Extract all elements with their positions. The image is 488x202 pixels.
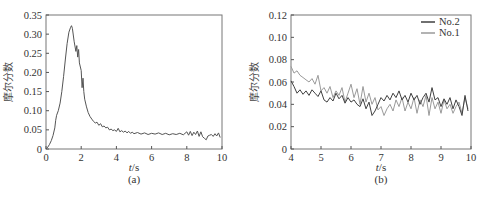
y-tick-label: 0.08	[269, 54, 287, 65]
x-tick-label: 8	[184, 152, 189, 163]
x-tick-label: 6	[149, 152, 154, 163]
x-tick-label: 10	[466, 152, 477, 163]
x-tick-label: 8	[408, 152, 413, 163]
y-tick-label: 0	[37, 144, 42, 155]
x-tick-label: 2	[79, 152, 84, 163]
x-tick-label: 6	[348, 152, 353, 163]
panel-label: (b)	[375, 173, 388, 186]
x-tick-label: 10	[217, 152, 228, 163]
y-tick-label: 0.35	[24, 10, 42, 21]
plot-frame	[46, 15, 222, 149]
x-axis-label: t/s	[376, 161, 386, 173]
chart-panel-a: 024681000.050.100.150.200.250.300.35摩尔分数…	[2, 10, 227, 187]
y-tick-label: 0.05	[24, 124, 42, 135]
series-line-mole-fraction	[46, 26, 220, 149]
y-tick-label: 0.30	[24, 29, 42, 40]
y-tick-label: 0.20	[24, 67, 42, 78]
y-tick-label: 0.06	[269, 77, 287, 88]
series-line-no-1	[291, 66, 468, 115]
x-axis-label: t/s	[129, 161, 139, 173]
y-axis-label: 摩尔分数	[2, 62, 14, 102]
x-tick-label: 5	[318, 152, 323, 163]
y-tick-label: 0	[282, 144, 287, 155]
y-tick-label: 0.12	[269, 10, 287, 21]
legend-label: No.1	[439, 27, 460, 38]
y-tick-label: 0.02	[269, 121, 287, 132]
x-tick-label: 0	[43, 152, 48, 163]
figure-canvas: 024681000.050.100.150.200.250.300.35摩尔分数…	[0, 0, 488, 202]
chart-panel-b: 4567891000.020.040.060.080.100.12摩尔分数t/s…	[248, 10, 476, 187]
panel-label: (a)	[128, 173, 141, 186]
legend-label: No.2	[439, 16, 460, 27]
x-tick-label: 4	[288, 152, 294, 163]
y-tick-label: 0.10	[269, 32, 287, 43]
y-tick-label: 0.04	[269, 99, 288, 110]
y-tick-label: 0.25	[24, 48, 42, 59]
x-tick-label: 9	[438, 152, 443, 163]
y-tick-label: 0.10	[24, 105, 42, 116]
y-axis-label: 摩尔分数	[248, 62, 260, 102]
x-tick-label: 4	[114, 152, 120, 163]
y-tick-label: 0.15	[24, 86, 42, 97]
